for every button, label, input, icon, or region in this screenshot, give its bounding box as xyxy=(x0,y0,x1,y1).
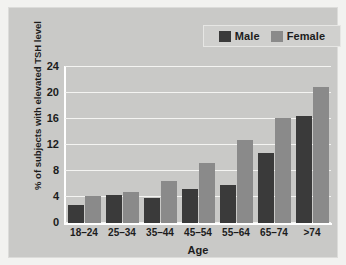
legend-entry-female: Female xyxy=(271,30,326,42)
y-axis-tick-label: 0 xyxy=(53,216,59,228)
x-axis-tick-label: 18–24 xyxy=(65,227,103,238)
bar-male xyxy=(106,195,122,223)
x-axis-tick-labels: 18–2425–3435–4445–5455–6465–74>74 xyxy=(65,227,331,238)
bar-male xyxy=(296,116,312,223)
bar-group xyxy=(179,67,217,223)
bar-female xyxy=(275,118,291,223)
bar-male xyxy=(68,205,84,223)
chart-figure: Male Female % of subjects with elevated … xyxy=(0,0,346,265)
bar-female xyxy=(85,196,101,223)
chart-legend: Male Female xyxy=(203,25,341,47)
chart-plot-frame: Male Female % of subjects with elevated … xyxy=(8,7,338,258)
legend-entry-male: Male xyxy=(219,30,260,42)
legend-label-female: Female xyxy=(287,30,326,42)
y-axis-tick-label: 24 xyxy=(47,60,59,72)
y-axis-tick-label: 4 xyxy=(53,190,59,202)
bar-group xyxy=(141,67,179,223)
bar-group xyxy=(255,67,293,223)
y-axis-tick-label: 8 xyxy=(53,164,59,176)
y-axis-title: % of subjects with elevated TSH level xyxy=(32,16,43,196)
bar-female xyxy=(237,140,253,223)
bar-group xyxy=(293,67,331,223)
x-axis-tick-label: >74 xyxy=(293,227,331,238)
x-axis-tick-label: 45–54 xyxy=(179,227,217,238)
bar-male xyxy=(258,153,274,223)
bar-female xyxy=(123,192,139,223)
y-axis-tick-label: 12 xyxy=(47,138,59,150)
legend-label-male: Male xyxy=(235,30,260,42)
bar-group xyxy=(103,67,141,223)
bar-female xyxy=(199,163,215,223)
y-axis-tick-label: 20 xyxy=(47,86,59,98)
bar-male xyxy=(220,185,236,223)
legend-swatch-male-icon xyxy=(219,31,231,42)
x-axis-tick-label: 55–64 xyxy=(217,227,255,238)
bar-group xyxy=(65,67,103,223)
chart-plot-area: 04812162024 xyxy=(65,67,331,223)
bar-female xyxy=(161,181,177,223)
bar-male xyxy=(144,198,160,223)
bar-male xyxy=(182,189,198,223)
chart-bars xyxy=(65,67,331,223)
bar-group xyxy=(217,67,255,223)
x-axis-tick-label: 65–74 xyxy=(255,227,293,238)
x-axis-line xyxy=(64,223,332,225)
y-axis-tick-label: 16 xyxy=(47,112,59,124)
x-axis-tick-label: 25–34 xyxy=(103,227,141,238)
x-axis-title: Age xyxy=(65,244,331,256)
bar-female xyxy=(313,87,329,224)
legend-swatch-female-icon xyxy=(271,31,283,42)
x-axis-tick-label: 35–44 xyxy=(141,227,179,238)
